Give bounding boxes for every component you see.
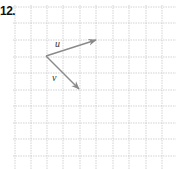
vector-v-arrow [46,56,79,89]
vectors: uv [46,38,96,89]
vector-v-label: v [52,72,57,83]
vector-grid-diagram: uv [0,0,176,169]
vector-u-arrow [46,40,96,56]
grid-lines [13,5,176,169]
vector-u-label: u [55,38,60,49]
